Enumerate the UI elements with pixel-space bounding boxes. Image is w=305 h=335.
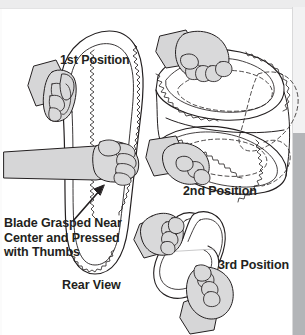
finger-third-c (161, 241, 175, 254)
caption-third-position: 3rd Position (218, 258, 289, 273)
caption-rear-view: Rear View (62, 278, 121, 293)
caption-blade-note-line-3: with Thumbs (4, 245, 126, 260)
finger-third-f (204, 291, 221, 306)
thumb-third-upper (168, 217, 184, 233)
finger-f-second (194, 169, 210, 184)
figure-page: 1st Position 2nd Position 3rd Position R… (0, 0, 305, 335)
caption-first-position: 1st Position (60, 53, 130, 68)
bandsaw-blade-folding-illustration (0, 0, 305, 335)
thumb-lower (98, 140, 120, 156)
thumb-upper-left (60, 74, 74, 100)
caption-blade-note-line-2: Center and Pressed (4, 231, 126, 246)
thumb-lower-second (176, 156, 193, 171)
caption-blade-note: Blade Grasped Near Center and Pressed wi… (4, 216, 126, 260)
thumb-upper-second (180, 54, 198, 69)
band-connector-left (156, 90, 160, 140)
thumb-third-lower (194, 265, 211, 281)
caption-second-position: 2nd Position (183, 184, 257, 199)
finger-d-second (216, 61, 233, 76)
caption-blade-note-line-1: Blade Grasped Near (4, 216, 126, 231)
